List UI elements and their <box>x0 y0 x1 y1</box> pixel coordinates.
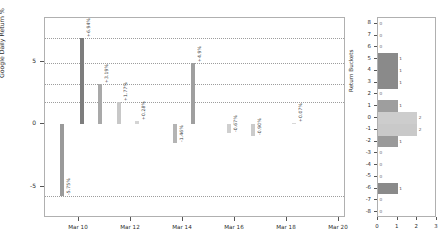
histogram-y-tick-label: 0 <box>355 114 371 120</box>
histogram-y-tick-mark <box>374 70 377 71</box>
return-buckets-plot-area: 00011101221000100 <box>378 18 435 216</box>
bucket-count-label: 1 <box>399 80 402 85</box>
x-tick-mark <box>182 217 183 221</box>
return-bar-label: -0.67% <box>233 115 238 132</box>
return-bar <box>292 123 296 124</box>
y-tick-mark <box>40 186 44 187</box>
y-axis-label: Google Daily Return % <box>0 8 5 78</box>
bucket-count-label: 0 <box>380 21 383 26</box>
histogram-y-tick-label: -1 <box>355 125 371 131</box>
bucket-count-label: 0 <box>380 174 383 179</box>
bucket-bar <box>378 77 398 89</box>
histogram-y-tick-mark <box>374 105 377 106</box>
histogram-y-tick-mark <box>374 58 377 59</box>
histogram-y-tick-label: 8 <box>355 19 371 25</box>
x-tick-label: Mar 14 <box>165 224 199 230</box>
gridline <box>45 196 344 197</box>
bucket-bar <box>378 53 398 65</box>
histogram-y-tick-label: 6 <box>355 43 371 49</box>
bucket-bar <box>378 136 398 148</box>
return-bar-label: -5.75% <box>66 178 71 195</box>
bucket-count-label: 2 <box>419 115 422 120</box>
histogram-y-tick-mark <box>374 188 377 189</box>
histogram-x-tick-label: 3 <box>429 223 443 229</box>
histogram-y-tick-mark <box>374 23 377 24</box>
bucket-count-label: 1 <box>399 186 402 191</box>
bucket-bar <box>378 100 398 112</box>
y-tick-label: 0 <box>14 119 36 126</box>
histogram-y-tick-label: -4 <box>355 161 371 167</box>
return-bar-label: +4.9% <box>197 46 202 62</box>
histogram-y-tick-label: 3 <box>355 78 371 84</box>
bucket-bar <box>378 65 398 77</box>
daily-returns-panel: -5.75%+6.94%+3.19%+1.77%+0.28%-1.46%+4.9… <box>44 17 345 217</box>
histogram-y-tick-mark <box>374 46 377 47</box>
x-tick-label: Mar 10 <box>61 224 95 230</box>
histogram-y-tick-label: 1 <box>355 102 371 108</box>
histogram-y-tick-label: 7 <box>355 31 371 37</box>
return-bar-label: +1.77% <box>123 82 128 101</box>
histogram-y-tick-label: -5 <box>355 172 371 178</box>
return-bar <box>227 124 231 132</box>
return-bar-label: -0.90% <box>257 118 262 135</box>
bucket-count-label: 0 <box>380 162 383 167</box>
return-bar-label: +0.28% <box>141 101 146 120</box>
histogram-y-tick-mark <box>374 93 377 94</box>
bucket-count-label: 2 <box>419 127 422 132</box>
histogram-y-tick-label: -3 <box>355 149 371 155</box>
x-tick-label: Mar 16 <box>217 224 251 230</box>
bucket-count-label: 0 <box>380 33 383 38</box>
histogram-y-tick-label: -6 <box>355 184 371 190</box>
histogram-x-tick-mark <box>397 217 398 220</box>
histogram-y-axis-label: Return Buckets <box>348 50 354 92</box>
histogram-y-tick-mark <box>374 199 377 200</box>
histogram-y-tick-mark <box>374 129 377 130</box>
histogram-y-tick-mark <box>374 211 377 212</box>
histogram-y-tick-label: 2 <box>355 90 371 96</box>
bucket-count-label: 0 <box>380 91 383 96</box>
bucket-count-label: 0 <box>380 197 383 202</box>
histogram-x-tick-label: 0 <box>370 223 384 229</box>
return-bar <box>60 124 64 196</box>
return-bar <box>98 84 102 124</box>
histogram-y-tick-label: 4 <box>355 66 371 72</box>
bucket-bar <box>378 183 398 195</box>
histogram-x-tick-mark <box>436 217 437 220</box>
histogram-y-tick-mark <box>374 152 377 153</box>
return-bar <box>191 63 195 124</box>
histogram-y-tick-mark <box>374 141 377 142</box>
y-tick-mark <box>40 123 44 124</box>
histogram-x-tick-mark <box>416 217 417 220</box>
histogram-y-tick-mark <box>374 176 377 177</box>
histogram-y-tick-mark <box>374 82 377 83</box>
y-tick-label: -5 <box>14 182 36 189</box>
histogram-y-tick-mark <box>374 117 377 118</box>
histogram-y-tick-label: -7 <box>355 196 371 202</box>
bucket-count-label: 1 <box>399 103 402 108</box>
histogram-y-tick-label: -2 <box>355 137 371 143</box>
histogram-x-tick-mark <box>377 217 378 220</box>
return-bar <box>117 102 121 124</box>
x-tick-label: Mar 18 <box>269 224 303 230</box>
y-tick-label: 5 <box>14 57 36 64</box>
bucket-count-label: 0 <box>380 209 383 214</box>
return-bar-label: -1.46% <box>179 125 184 142</box>
histogram-y-tick-label: 5 <box>355 55 371 61</box>
histogram-y-tick-mark <box>374 164 377 165</box>
bucket-count-label: 1 <box>399 56 402 61</box>
histogram-y-tick-label: -8 <box>355 208 371 214</box>
histogram-y-tick-mark <box>374 35 377 36</box>
chart-figure: -5.75%+6.94%+3.19%+1.77%+0.28%-1.46%+4.9… <box>0 0 444 248</box>
return-bar <box>251 124 255 135</box>
x-tick-label: Mar 12 <box>113 224 147 230</box>
return-bar-label: +6.94% <box>86 18 91 37</box>
y-tick-mark <box>40 61 44 62</box>
daily-returns-plot-area: -5.75%+6.94%+3.19%+1.77%+0.28%-1.46%+4.9… <box>45 18 344 216</box>
return-bar-label: +3.19% <box>104 64 109 83</box>
x-tick-mark <box>338 217 339 221</box>
histogram-x-tick-label: 2 <box>409 223 423 229</box>
x-tick-mark <box>234 217 235 221</box>
gridline <box>45 38 344 39</box>
bucket-count-label: 0 <box>380 150 383 155</box>
histogram-x-tick-label: 1 <box>390 223 404 229</box>
